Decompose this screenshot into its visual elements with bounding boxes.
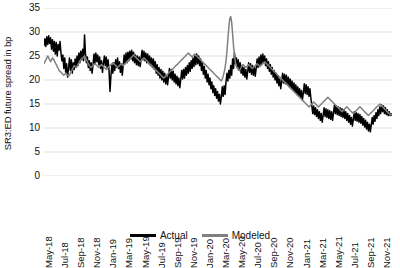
y-axis-tick-label: 5 <box>16 147 40 157</box>
y-axis-tick-labels: 05101520253035 <box>14 0 40 186</box>
series-lines <box>44 17 392 132</box>
legend-entry[interactable]: Actual <box>130 230 188 241</box>
legend-swatch-icon <box>130 234 156 237</box>
y-axis-title-text: SR3:ED future spread in bp <box>3 36 14 150</box>
legend-label: Actual <box>160 230 188 241</box>
y-axis-tick-label: 25 <box>16 51 40 61</box>
y-axis-tick-label: 30 <box>16 27 40 37</box>
legend-label: Modeled <box>232 230 270 241</box>
y-axis-tick-label: 0 <box>16 171 40 181</box>
plot-area <box>44 8 392 176</box>
y-axis-tick-label: 15 <box>16 99 40 109</box>
y-axis-tick-label: 10 <box>16 123 40 133</box>
series-line <box>44 35 392 132</box>
y-axis-tick-label: 35 <box>16 3 40 13</box>
y-axis-tick-label: 20 <box>16 75 40 85</box>
legend-entry[interactable]: Modeled <box>202 230 270 241</box>
x-axis-tick-labels: May-18Jul-18Sep-18Nov-18Jan-19Mar-19May-… <box>44 178 392 224</box>
legend-swatch-icon <box>202 234 228 237</box>
plot-svg <box>44 8 392 176</box>
chart-legend: ActualModeled <box>0 226 400 244</box>
